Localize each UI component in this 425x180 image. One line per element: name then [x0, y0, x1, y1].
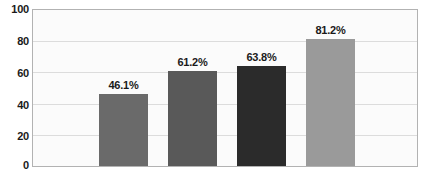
bar-label-2: 61.2% — [168, 56, 217, 68]
bar-1[interactable] — [99, 94, 148, 166]
bar-label-1: 46.1% — [99, 79, 148, 91]
gridline-40 — [33, 104, 417, 105]
bar-chart: 100 80 60 40 20 0 46.1% 61.2% 63.8% 81.2… — [0, 0, 425, 180]
y-tick-label-0: 0 — [1, 159, 29, 171]
bar-label-3: 63.8% — [237, 51, 286, 63]
y-tick-label-100: 100 — [1, 3, 29, 15]
gridline-80 — [33, 41, 417, 42]
y-tick-label-20: 20 — [1, 130, 29, 142]
y-tick-label-40: 40 — [1, 99, 29, 111]
gridline-20 — [33, 135, 417, 136]
y-tick-label-80: 80 — [1, 35, 29, 47]
bar-label-4: 81.2% — [306, 24, 355, 36]
bar-3[interactable] — [237, 66, 286, 166]
y-tick-label-60: 60 — [1, 67, 29, 79]
bar-2[interactable] — [168, 71, 217, 166]
gridline-60 — [33, 72, 417, 73]
bar-4[interactable] — [306, 39, 355, 166]
plot-area: 46.1% 61.2% 63.8% 81.2% — [32, 9, 418, 167]
y-axis: 100 80 60 40 20 0 — [0, 0, 29, 180]
